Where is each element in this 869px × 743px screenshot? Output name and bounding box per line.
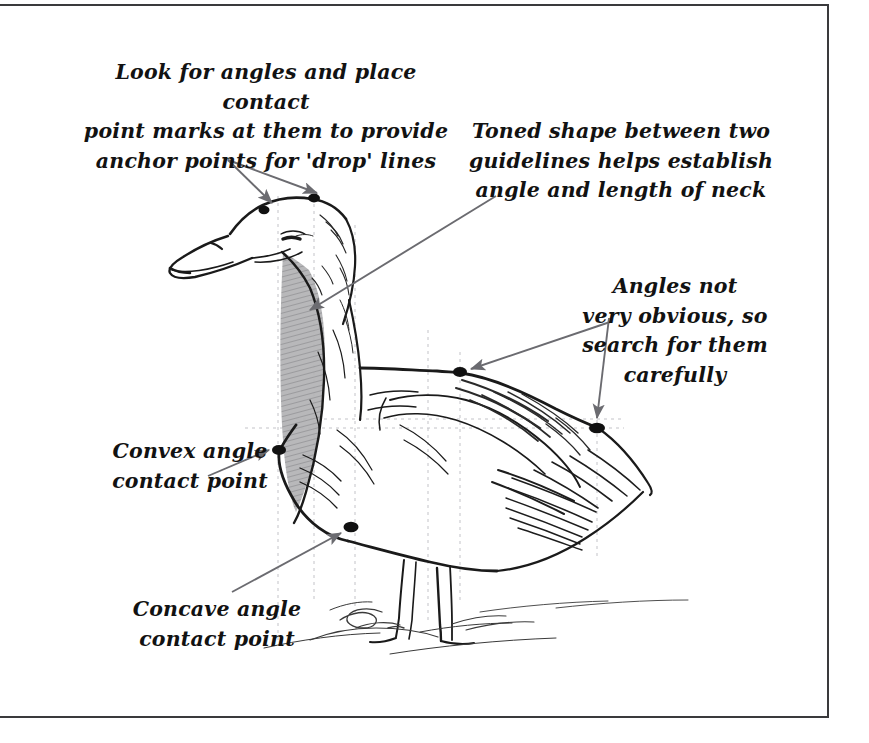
caption-look-for-angles: Look for angles and place contact point … bbox=[76, 58, 456, 177]
duck-neck-detail-3 bbox=[310, 400, 320, 434]
caption-toned-shape: Toned shape between two guidelines helps… bbox=[466, 117, 776, 206]
duck-breast-feather-5 bbox=[340, 446, 374, 484]
duck-shoulder-strokes-2 bbox=[368, 406, 416, 410]
contact-point-tail-base bbox=[589, 423, 605, 433]
arrow-concave-angle bbox=[232, 533, 341, 592]
duck-head-crown bbox=[230, 198, 346, 234]
duck-eye bbox=[283, 238, 300, 240]
contact-point-back-shoulder bbox=[453, 367, 467, 377]
duck-beak-tip bbox=[170, 268, 190, 273]
arrow-toned-shape bbox=[310, 196, 496, 310]
duck-neck-detail-1 bbox=[333, 330, 345, 378]
duck-beak-nostril bbox=[211, 243, 222, 249]
duck-tail-feathers bbox=[492, 450, 640, 550]
contact-point-marks bbox=[259, 194, 606, 533]
duck-breast-feather-2 bbox=[300, 468, 339, 495]
duck-leg-right bbox=[437, 568, 441, 641]
duck-foot-right bbox=[441, 641, 474, 644]
duck-wing-lower bbox=[384, 414, 545, 474]
contact-point-head-back bbox=[308, 194, 320, 203]
construction-guidelines bbox=[245, 190, 624, 640]
duck-shoulder-strokes bbox=[370, 391, 418, 395]
frame-border-right bbox=[827, 4, 829, 718]
duck-neck-detail-2 bbox=[318, 352, 330, 400]
duck-head-texture bbox=[296, 215, 353, 353]
duck-foot-left bbox=[370, 638, 396, 642]
duck-breast-feather-3 bbox=[300, 482, 337, 508]
duck-wing-outline bbox=[390, 395, 580, 487]
duck-breast-feather-4 bbox=[337, 430, 372, 470]
caption-angles-not-obvious: Angles not very obvious, so search for t… bbox=[560, 272, 790, 391]
frame-border-top bbox=[0, 4, 828, 6]
duck-tail-tip bbox=[598, 428, 652, 495]
diagram-page: Look for angles and place contact point … bbox=[0, 0, 869, 743]
duck-jaw-line bbox=[255, 252, 302, 262]
duck-belly-line bbox=[348, 541, 497, 571]
duck-breast-feather-1 bbox=[303, 455, 341, 481]
contact-point-head-front bbox=[259, 206, 270, 214]
duck-eye-lid bbox=[281, 231, 305, 234]
duck-undertail bbox=[497, 492, 643, 571]
duck-beak-underline bbox=[172, 262, 233, 272]
caption-concave-angle-contact-point: Concave angle contact point bbox=[112, 595, 322, 654]
duck-face-line bbox=[252, 249, 290, 258]
duck-beak bbox=[170, 236, 252, 278]
frame-border-bottom bbox=[0, 716, 829, 718]
caption-convex-angle-contact-point: Convex angle contact point bbox=[90, 437, 290, 496]
duck-leg-left bbox=[396, 560, 404, 637]
ground-scribbles bbox=[264, 600, 688, 654]
duck-head-back bbox=[343, 219, 355, 324]
duck-flank-hatching bbox=[456, 380, 590, 455]
duck-leg-right-back bbox=[450, 566, 452, 640]
duck-leg-left-back bbox=[409, 562, 416, 639]
duck-body-feather-1 bbox=[400, 425, 446, 461]
duck-wing-front bbox=[379, 398, 386, 430]
duck-body-feather-2 bbox=[404, 440, 448, 474]
duck-neck-back bbox=[349, 300, 362, 420]
contact-point-belly-concave bbox=[344, 522, 359, 532]
